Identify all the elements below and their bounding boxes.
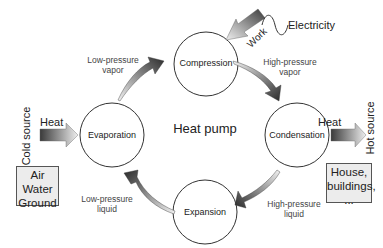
evaporation-label: Evaporation: [82, 130, 142, 140]
cold-example: Air: [17, 169, 58, 183]
hot-example: House,: [327, 166, 371, 180]
hot-example: ...: [327, 194, 371, 208]
hot-source-box: House, buildings, ...: [326, 163, 372, 203]
hot-example: buildings,: [327, 180, 371, 194]
flow-line: vapor: [258, 68, 322, 78]
diagram-title: Heat pump: [165, 122, 245, 137]
flow-line: liquid: [262, 210, 326, 220]
low-pressure-liquid-label: Low-pressure liquid: [76, 195, 138, 215]
low-pressure-vapor-label: Low-pressure vapor: [82, 56, 144, 76]
cold-example: Ground: [17, 197, 58, 211]
flow-line: vapor: [82, 66, 144, 76]
cold-example: Water: [17, 183, 58, 197]
condensation-label: Condensation: [265, 130, 329, 140]
hot-source-label: Hot source: [364, 95, 376, 161]
high-pressure-liquid-label: High-pressure liquid: [262, 200, 326, 220]
cold-source-box: Air Water Ground: [16, 166, 59, 206]
expansion-label: Expansion: [175, 207, 235, 217]
cold-heat-label: Heat: [40, 116, 68, 129]
compression-label: Compression: [176, 58, 236, 68]
hot-heat-label: Heat: [318, 116, 346, 129]
electricity-label: Electricity: [288, 19, 344, 32]
flow-line: liquid: [76, 205, 138, 215]
cold-source-label: Cold source: [20, 101, 32, 171]
high-pressure-vapor-label: High-pressure vapor: [258, 58, 322, 78]
